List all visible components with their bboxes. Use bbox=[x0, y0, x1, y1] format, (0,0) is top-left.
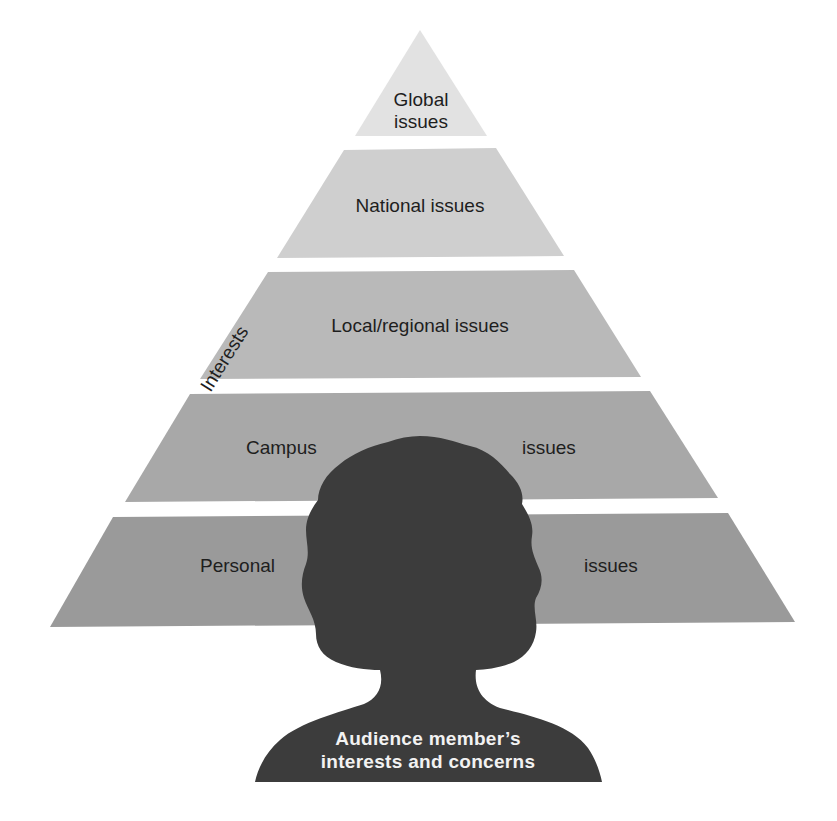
tier-campus-label-right: issues bbox=[522, 437, 576, 459]
tier-personal-label-right: issues bbox=[584, 555, 638, 577]
silhouette-caption-line1: Audience member’s bbox=[321, 727, 536, 750]
tier-local-regional-label: Local/regional issues bbox=[331, 315, 508, 337]
tier-personal-label-left: Personal bbox=[200, 555, 275, 577]
silhouette-caption: Audience member’s interests and concerns bbox=[321, 727, 536, 773]
tier-global-label-line1: Global bbox=[394, 89, 449, 111]
tier-global-label-line2: issues bbox=[394, 111, 449, 133]
tier-global-label: Global issues bbox=[394, 89, 449, 133]
tier-campus-label-left: Campus bbox=[246, 437, 317, 459]
tier-national-label: National issues bbox=[356, 195, 485, 217]
interests-pyramid-diagram: Global issues National issues Local/regi… bbox=[0, 0, 837, 821]
silhouette-caption-line2: interests and concerns bbox=[321, 750, 536, 773]
